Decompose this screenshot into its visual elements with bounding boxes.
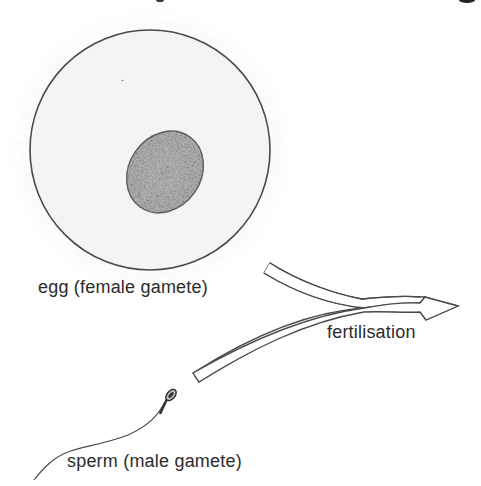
fertilisation-label: fertilisation <box>327 322 416 343</box>
fertilisation-arrow <box>193 263 458 382</box>
sperm-label: sperm (male gamete) <box>67 451 242 472</box>
fertilisation-diagram <box>0 0 481 486</box>
top-cropped-fragments <box>156 0 475 3</box>
sperm-midpiece <box>160 399 167 414</box>
egg-label: egg (female gamete) <box>38 277 208 298</box>
egg-cell <box>8 8 292 292</box>
